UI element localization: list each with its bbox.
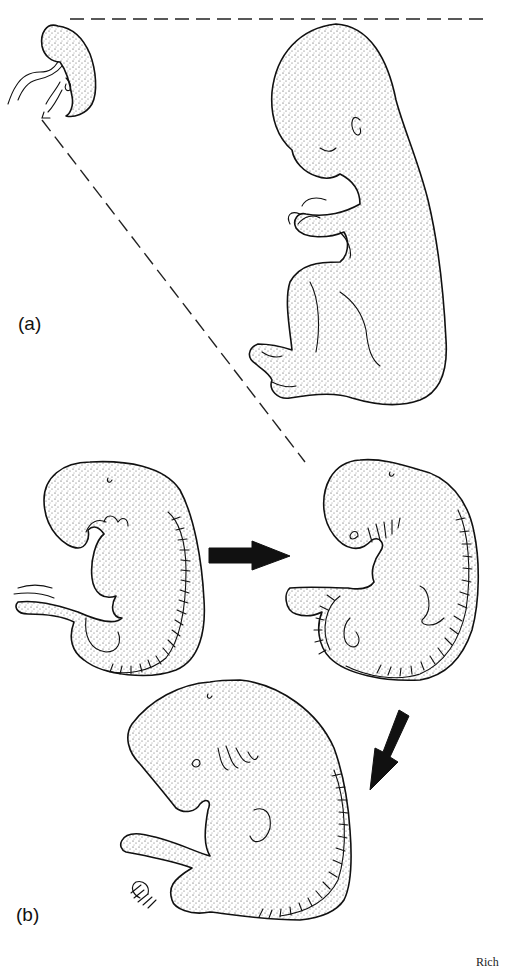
large-fetus (249, 24, 446, 404)
illustration-svg (0, 0, 507, 970)
projection-line-diagonal (42, 120, 305, 462)
figure-canvas: (a) (b) Rich (0, 0, 507, 970)
arrow-down-left-icon (370, 710, 409, 790)
small-fetus (8, 25, 96, 118)
arrow-right-icon (209, 541, 290, 570)
embryo-stage-2 (286, 460, 478, 681)
embryo-stage-1 (14, 462, 204, 676)
artist-credit: Rich (476, 955, 499, 970)
panel-label-b: (b) (16, 905, 39, 924)
embryo-stage-3 (121, 680, 351, 920)
panel-label-a: (a) (18, 314, 41, 333)
